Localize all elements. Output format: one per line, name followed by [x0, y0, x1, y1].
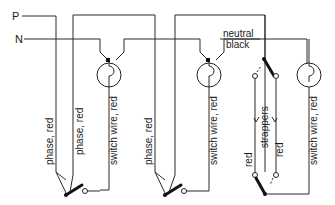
phase-red-label-3: phase, red: [143, 118, 154, 165]
lamp-icon: [297, 63, 321, 87]
switch-wire-label-3: switch wire, red: [308, 96, 319, 165]
neutral-label: neutral: [223, 28, 254, 39]
switch-lever-icon[interactable]: [66, 185, 82, 195]
strappers-label: strappers: [259, 106, 270, 148]
lamp-3: [297, 39, 321, 87]
phase-red-label-2: phase, red: [74, 108, 85, 155]
junction-dot: [106, 58, 110, 62]
junction-dot: [206, 58, 210, 62]
switch-1[interactable]: [56, 172, 100, 197]
switch-lever-icon[interactable]: [256, 178, 265, 194]
neutral-bus-label: N: [15, 33, 23, 45]
strapper-left-label: red: [243, 153, 254, 167]
switch-wire-label-2: switch wire, red: [208, 96, 219, 165]
switch-lever-icon[interactable]: [165, 185, 181, 195]
phase-red-label-1: phase, red: [44, 118, 55, 165]
black-label: black: [226, 39, 250, 50]
strapper-right-label: red: [274, 143, 285, 157]
wiring-diagram: P N: [0, 0, 335, 205]
switch-wire-label-1: switch wire, red: [108, 96, 119, 165]
phase-bus-label: P: [12, 10, 19, 22]
